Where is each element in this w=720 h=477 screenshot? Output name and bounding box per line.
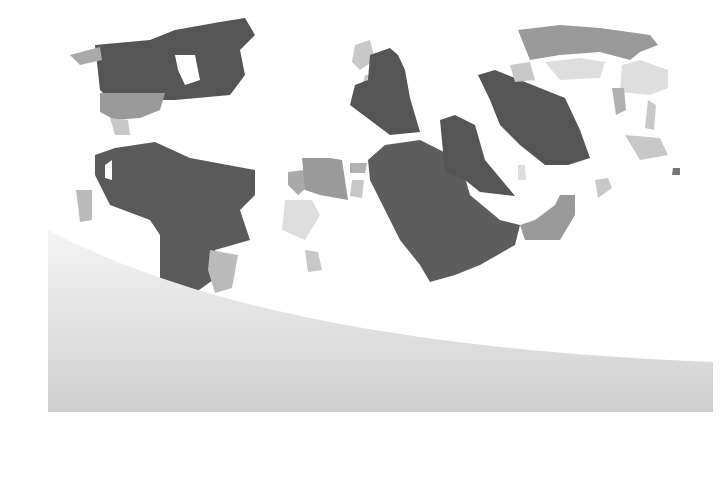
bar-chart (0, 230, 720, 477)
chart-background (0, 230, 720, 477)
map-legend (620, 208, 720, 214)
